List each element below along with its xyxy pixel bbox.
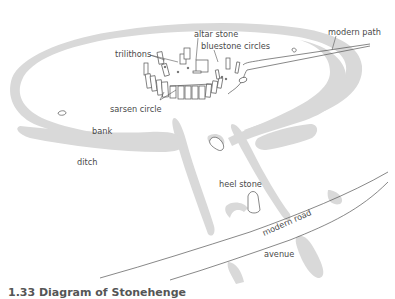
figure-caption: 1.33 Diagram of Stonehenge [8,286,186,299]
avenue-bands [17,118,342,284]
label-modern-path: modern path [328,27,381,37]
label-trilithons: trilithons [115,49,151,59]
label-altar-stone: altar stone [194,29,238,39]
label-bank: bank [92,126,112,136]
label-avenue: avenue [264,249,294,259]
label-bluestone-circles: bluestone circles [201,41,270,51]
label-heel-stone: heel stone [219,179,262,189]
label-ditch: ditch [77,157,97,167]
label-sarsen-circle: sarsen circle [110,104,162,114]
